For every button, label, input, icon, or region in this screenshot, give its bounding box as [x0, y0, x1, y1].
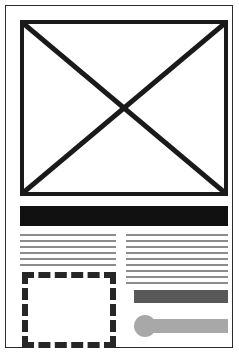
slider-control[interactable] [134, 315, 228, 337]
text-line [126, 258, 228, 260]
left-text-column [20, 234, 116, 266]
text-line [126, 234, 228, 236]
text-line [20, 234, 116, 236]
page-frame [5, 5, 233, 348]
text-line [20, 258, 116, 260]
text-line [126, 276, 228, 278]
text-line [20, 246, 116, 248]
text-line [20, 240, 116, 242]
slider-track[interactable] [146, 319, 228, 333]
header-band [20, 206, 228, 226]
text-line [126, 282, 228, 284]
text-line [20, 264, 116, 266]
text-line [126, 240, 228, 242]
text-line [126, 270, 228, 272]
dashed-placeholder-box[interactable] [22, 272, 116, 348]
text-line [126, 246, 228, 248]
slider-knob[interactable] [134, 315, 156, 337]
wireframe-page [0, 0, 239, 353]
text-line [126, 252, 228, 254]
image-placeholder[interactable] [20, 20, 228, 196]
image-placeholder-cross-icon [24, 24, 224, 192]
dark-bar[interactable] [134, 290, 228, 303]
right-text-column [126, 234, 228, 284]
text-line [20, 252, 116, 254]
text-line [126, 264, 228, 266]
